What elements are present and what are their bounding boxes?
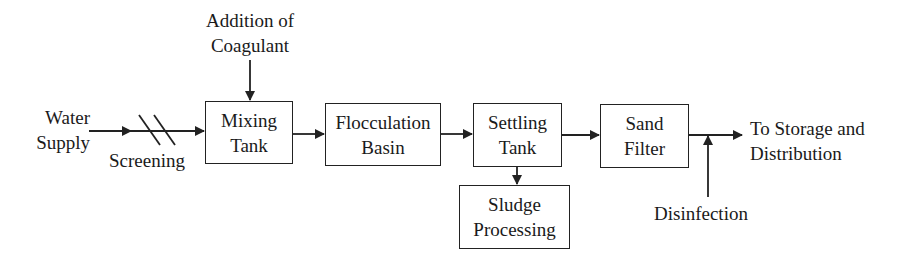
water-supply-line-1: Water [32, 105, 90, 130]
flocculation-line-1: Flocculation [336, 110, 431, 135]
sand-filter-line-2: Filter [624, 136, 665, 161]
screening-label: Screening [109, 148, 185, 173]
coagulant-line-1: Addition of [190, 8, 310, 33]
mixing-tank-line-2: Tank [230, 133, 268, 158]
coagulant-line-2: Coagulant [190, 33, 310, 58]
settling-tank-line-1: Settling [488, 110, 547, 135]
disinfection-label: Disinfection [654, 201, 748, 226]
sludge-line-2: Processing [473, 217, 555, 242]
sand-filter-box: Sand Filter [600, 104, 689, 168]
output-line-1: To Storage and [750, 116, 865, 141]
sand-filter-line-1: Sand [626, 111, 664, 136]
settling-tank-box: Settling Tank [473, 103, 562, 167]
sludge-processing-box: Sludge Processing [459, 185, 570, 249]
settling-tank-line-2: Tank [499, 135, 537, 160]
mixing-tank-line-1: Mixing [221, 108, 277, 133]
sludge-line-1: Sludge [488, 192, 541, 217]
output-line-2: Distribution [750, 141, 865, 166]
output-label: To Storage and Distribution [750, 116, 865, 166]
water-supply-label: Water Supply [32, 105, 90, 155]
mixing-tank-box: Mixing Tank [205, 101, 293, 164]
water-supply-line-2: Supply [32, 130, 90, 155]
flocculation-line-2: Basin [361, 135, 404, 160]
water-treatment-flow-diagram: Water Supply Screening Addition of Coagu… [0, 0, 908, 264]
flocculation-basin-box: Flocculation Basin [325, 103, 441, 166]
coagulant-label: Addition of Coagulant [190, 8, 310, 58]
